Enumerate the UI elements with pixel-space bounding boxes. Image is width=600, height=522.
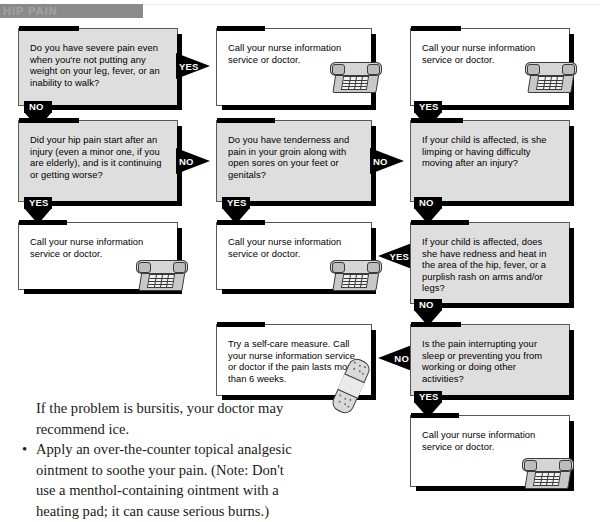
node-q1[interactable]: Do you have severe pain even when you're…: [18, 28, 178, 106]
phone-handset: [330, 62, 382, 76]
bullet-glyph: •: [22, 439, 27, 460]
arrow-label: NO: [29, 102, 44, 112]
phone-keypad: [147, 274, 175, 288]
node-q1-text: Do you have severe pain even when you're…: [19, 29, 177, 105]
node-q5-text: If your child is affected, does she have…: [411, 223, 569, 303]
copy-line: ointment to soothe your pain. (Note: Don…: [36, 460, 336, 481]
arrow-label: YES: [389, 252, 409, 262]
copy-line: use a menthol-containing ointment with a: [36, 480, 336, 501]
node-q3[interactable]: Do you have tenderness and pain in your …: [216, 120, 372, 202]
copy-line: Apply an over-the-counter topical analge…: [36, 439, 336, 460]
node-shadow-right: [569, 228, 574, 308]
phone-handset: [525, 62, 577, 76]
node-shadow-right: [569, 126, 574, 206]
arrow-no-q3-q4: NO: [370, 148, 410, 174]
arrow-label: YES: [227, 198, 247, 208]
phone-handset: [136, 260, 188, 274]
telephone-icon: [525, 60, 579, 92]
node-q3-text: Do you have tenderness and pain in your …: [217, 121, 371, 201]
arrow-yes-q1-a1: YES: [176, 53, 216, 79]
copy-line: heating pad; it can cause serious burns.…: [36, 501, 336, 522]
arrow-label: YES: [419, 392, 439, 402]
body-copy: If the problem is bursitis, your doctor …: [36, 398, 336, 522]
phone-handset: [330, 260, 382, 274]
arrow-label: YES: [179, 62, 199, 72]
arrow-label: YES: [419, 102, 439, 112]
phone-handset: [522, 458, 574, 472]
node-q4-text: If your child is affected, is she limpin…: [411, 121, 569, 201]
node-q2[interactable]: Did your hip pain start after an injury …: [18, 120, 178, 202]
arrow-label: NO: [419, 300, 434, 310]
arrow-no-q6-a5: NO: [372, 345, 412, 371]
arrow-label: NO: [394, 354, 409, 364]
copy-line: recommend ice.: [36, 419, 336, 440]
node-q6[interactable]: Is the pain interrupting your sleep or p…: [410, 324, 570, 396]
telephone-icon: [330, 258, 384, 290]
node-shadow-right: [569, 330, 574, 400]
arrow-label: NO: [419, 198, 434, 208]
node-q6-text: Is the pain interrupting your sleep or p…: [411, 325, 569, 395]
phone-keypad: [536, 76, 564, 90]
arrow-no-q2-q3: NO: [176, 148, 216, 174]
telephone-icon: [330, 60, 384, 92]
node-q4[interactable]: If your child is affected, is she limpin…: [410, 120, 570, 202]
copy-bullet-item: • Apply an over-the-counter topical anal…: [36, 439, 336, 521]
telephone-icon: [136, 258, 190, 290]
node-shadow-bottom: [222, 105, 376, 110]
copy-line: If the problem is bursitis, your doctor …: [36, 398, 336, 419]
phone-keypad: [341, 274, 369, 288]
phone-keypad: [341, 76, 369, 90]
node-q2-text: Did your hip pain start after an injury …: [19, 121, 177, 201]
header-band-text: HIP PAIN: [0, 4, 143, 18]
page-header-band: HIP PAIN: [0, 4, 143, 18]
phone-keypad: [533, 472, 561, 486]
arrow-label: YES: [29, 198, 49, 208]
telephone-icon: [522, 456, 576, 488]
node-q5[interactable]: If your child is affected, does she have…: [410, 222, 570, 304]
arrow-label: NO: [373, 157, 388, 167]
arrow-label: NO: [179, 157, 194, 167]
